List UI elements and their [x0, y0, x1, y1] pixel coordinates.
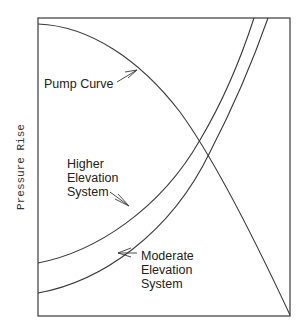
higher-elevation-system-curve: [38, 18, 254, 263]
moderate-label-line3: System: [141, 277, 183, 291]
higher-label-line3: System: [67, 185, 109, 199]
moderate-label-line1: Moderate: [141, 249, 194, 263]
moderate-label-line2: Elevation: [141, 263, 192, 277]
pump-curve-label: Pump Curve: [44, 77, 114, 91]
higher-label-line2: Elevation: [67, 171, 118, 185]
higher-system-arrow-icon: [110, 192, 129, 206]
pump-system-diagram: Pressure Rise Pump Curve Higher Elevatio…: [0, 0, 308, 336]
higher-label-line1: Higher: [67, 157, 104, 171]
pump-curve-arrow-icon: [117, 70, 137, 82]
y-axis-label: Pressure Rise: [15, 124, 27, 210]
